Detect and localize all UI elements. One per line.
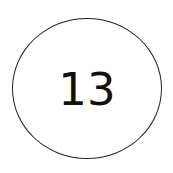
badge-number: 13 xyxy=(58,67,115,112)
number-circle-badge: 13 xyxy=(12,18,162,159)
